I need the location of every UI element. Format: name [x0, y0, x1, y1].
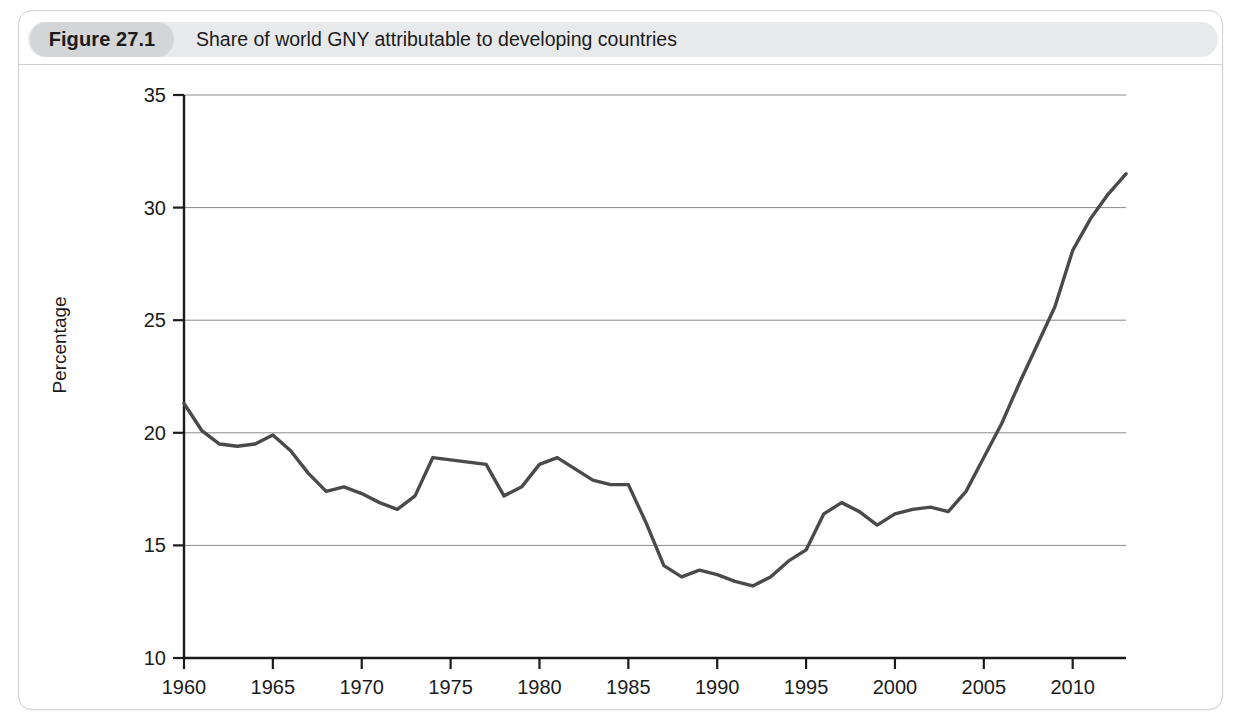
x-axis-ticks: 1960196519701975198019851990199520002005…	[162, 658, 1095, 698]
svg-text:1975: 1975	[428, 676, 473, 698]
svg-text:30: 30	[144, 197, 166, 219]
svg-text:1960: 1960	[162, 676, 207, 698]
svg-text:35: 35	[144, 84, 166, 106]
svg-text:1985: 1985	[606, 676, 651, 698]
figure-number-badge: Figure 27.1	[30, 22, 174, 57]
svg-text:20: 20	[144, 422, 166, 444]
y-axis-ticks: 101520253035	[144, 84, 184, 669]
svg-text:1965: 1965	[251, 676, 296, 698]
svg-text:15: 15	[144, 534, 166, 556]
svg-text:1995: 1995	[784, 676, 829, 698]
svg-text:1980: 1980	[517, 676, 562, 698]
svg-text:1990: 1990	[695, 676, 740, 698]
line-chart-svg: 101520253035 196019651970197519801985199…	[18, 66, 1223, 710]
svg-text:2000: 2000	[873, 676, 918, 698]
gridlines	[184, 95, 1126, 545]
svg-text:25: 25	[144, 309, 166, 331]
svg-text:2010: 2010	[1050, 676, 1095, 698]
svg-text:2005: 2005	[962, 676, 1007, 698]
svg-text:1970: 1970	[339, 676, 384, 698]
figure-screenshot: Figure 27.1 Share of world GNY attributa…	[0, 0, 1238, 727]
figure-title: Share of world GNY attributable to devel…	[196, 22, 677, 57]
data-series-line	[184, 174, 1126, 586]
plot-area: Percentage 101520253035 1960196519701975…	[18, 66, 1223, 710]
svg-text:10: 10	[144, 647, 166, 669]
